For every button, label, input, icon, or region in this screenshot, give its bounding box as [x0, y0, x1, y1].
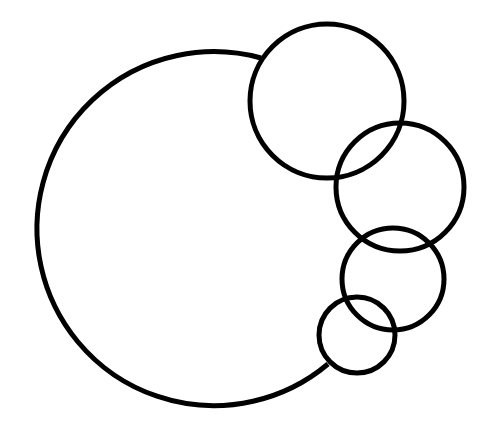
small-circle-1: [250, 24, 404, 178]
circles-diagram: [0, 0, 484, 426]
small-circle-4: [319, 297, 395, 373]
small-circle-2: [336, 123, 464, 251]
large-circle-arc: [37, 52, 328, 406]
small-circle-3: [342, 228, 444, 330]
small-circles: [250, 24, 464, 373]
